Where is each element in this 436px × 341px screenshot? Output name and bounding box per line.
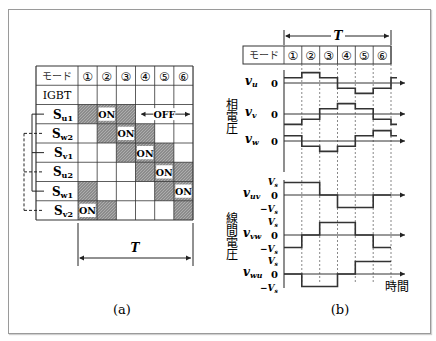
period-label-a: T xyxy=(131,241,141,255)
time-axis-label: 時間 xyxy=(385,280,409,294)
waveforms: vu0vv0vw0vuv0Vs−Vsvvw0Vs−Vsvwu0Vs−Vs xyxy=(243,70,405,294)
zero-label: 0 xyxy=(271,78,278,89)
neg-vs-label: −Vs xyxy=(260,244,279,255)
shaded-cell xyxy=(116,143,135,162)
on-label: ON xyxy=(79,205,96,216)
switching-table: ONONONONONONモード①②③④⑤⑥IGBTSu1Sw2Sv1Su2Sw1… xyxy=(36,66,193,220)
zero-label: 0 xyxy=(271,230,278,241)
line-voltage-label: 線間電圧 xyxy=(223,211,237,261)
zero-label: 0 xyxy=(271,136,278,147)
signal-label: vv xyxy=(245,105,257,120)
mode-header-label-b: モード xyxy=(249,50,279,61)
switch-label-Su1: Su1 xyxy=(53,108,73,123)
zero-label: 0 xyxy=(271,269,278,280)
signal-label: vuv xyxy=(243,186,261,201)
period-dimension-a: T xyxy=(78,223,193,266)
on-label: ON xyxy=(98,109,115,120)
mode-number-b: ① xyxy=(288,49,299,63)
figure-canvas: ONONONONONONモード①②③④⑤⑥IGBTSu1Sw2Sv1Su2Sw1… xyxy=(0,0,436,341)
caption-a: (a) xyxy=(113,302,131,317)
mode-number: ⑥ xyxy=(178,70,189,84)
vs-label: Vs xyxy=(268,177,279,188)
shaded-cell xyxy=(174,162,193,181)
mode-number-b: ② xyxy=(305,49,316,63)
on-label: ON xyxy=(175,186,192,197)
shaded-cell xyxy=(136,124,155,143)
shaded-cell xyxy=(97,124,116,143)
off-label: OFF xyxy=(153,109,175,120)
signal-label: vu xyxy=(245,74,258,89)
mode-number-b: ⑤ xyxy=(359,49,370,63)
mode-number: ⑤ xyxy=(159,70,170,84)
on-label: ON xyxy=(117,128,134,139)
zero-label: 0 xyxy=(271,190,278,201)
on-label: ON xyxy=(137,148,154,159)
igbt-label: IGBT xyxy=(43,89,72,102)
shaded-cell xyxy=(78,105,97,124)
mode-dashed-lines xyxy=(302,64,391,282)
mode-number-b: ⑥ xyxy=(377,49,388,63)
switch-label-Sw2: Sw2 xyxy=(52,127,73,142)
vs-label: Vs xyxy=(268,217,279,228)
mode-number: ③ xyxy=(121,70,132,84)
switch-label-Su2: Su2 xyxy=(53,165,73,180)
signal-label: vvw xyxy=(243,226,262,241)
mode-header-label: モード xyxy=(42,71,72,82)
caption-b: (b) xyxy=(331,302,349,317)
phase-voltage-label: 相電圧 xyxy=(223,98,237,135)
shaded-cell xyxy=(155,182,174,201)
neg-vs-label: −Vs xyxy=(260,283,279,294)
mode-header-b: モード①②③④⑤⑥ xyxy=(243,46,391,64)
neg-vs-label: −Vs xyxy=(260,204,279,215)
signal-label: vwu xyxy=(243,265,263,280)
shaded-cell xyxy=(155,143,174,162)
period-dimension-b: T xyxy=(284,28,391,45)
mode-number: ② xyxy=(101,70,112,84)
shaded-cell xyxy=(136,162,155,181)
mode-number: ④ xyxy=(140,70,151,84)
vs-label: Vs xyxy=(268,256,279,267)
switch-label-Sv1: Sv1 xyxy=(54,146,73,161)
mode-number-b: ④ xyxy=(341,49,352,63)
mode-number: ① xyxy=(82,70,93,84)
shaded-cell xyxy=(97,201,116,220)
zero-label: 0 xyxy=(271,109,278,120)
shaded-cell xyxy=(78,182,97,201)
shaded-cell xyxy=(116,105,135,124)
period-label-b: T xyxy=(334,29,344,43)
on-label: ON xyxy=(156,167,173,178)
shaded-cell xyxy=(174,201,193,220)
switch-label-Sv2: Sv2 xyxy=(54,204,73,219)
signal-label: vw xyxy=(245,132,259,147)
switch-label-Sw1: Sw1 xyxy=(52,185,73,200)
mode-number-b: ③ xyxy=(323,49,334,63)
